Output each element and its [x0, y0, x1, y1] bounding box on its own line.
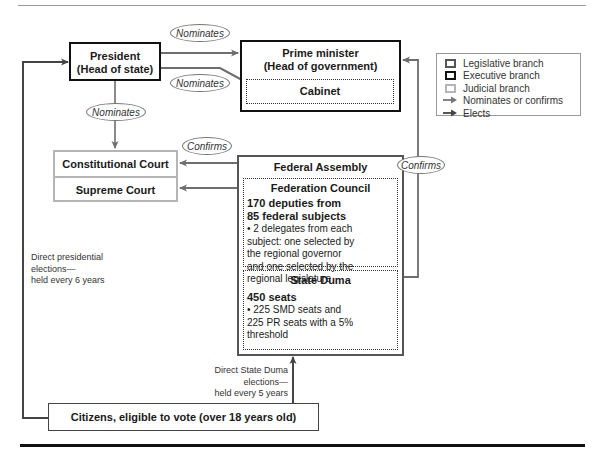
note-line: Direct State Duma	[185, 365, 288, 377]
legend-item-elects: Elects	[443, 107, 580, 120]
note-line: elections—	[31, 264, 141, 276]
presidential-elections-note: Direct presidential elections— held ever…	[31, 252, 141, 287]
confirms-label-pm: Confirms	[397, 156, 445, 174]
legend-label: Legislative branch	[463, 58, 544, 69]
constitutional-court: Constitutional Court	[55, 152, 176, 178]
state-duma-title: State Duma	[247, 274, 394, 287]
president-box: President (Head of state)	[69, 42, 161, 81]
federation-council-detail-1: • 2 delegates from each	[247, 223, 394, 236]
supreme-court: Supreme Court	[55, 178, 176, 202]
state-duma-headline: 450 seats	[247, 291, 394, 304]
federal-assembly-title: Federal Assembly	[239, 157, 402, 174]
federation-council-detail-2: subject: one selected by	[247, 236, 394, 249]
federation-council-headline-1: 170 deputies from	[247, 197, 394, 210]
nominates-label-pm: Nominates	[170, 24, 230, 42]
citizens-box: Citizens, eligible to vote (over 18 year…	[48, 403, 319, 431]
pm-subtitle: (Head of government)	[242, 60, 399, 73]
cabinet-box: Cabinet	[246, 79, 394, 104]
courts-box: Constitutional Court Supreme Court	[53, 150, 178, 202]
nominates-label-cabinet: Nominates	[170, 74, 230, 92]
federation-council-detail-3: the regional governor	[247, 248, 394, 261]
note-line: held every 6 years	[31, 275, 141, 287]
legend-item-judicial: Judicial branch	[443, 82, 580, 95]
legend-label: Elects	[463, 108, 490, 119]
legend-item-executive: Executive branch	[443, 70, 580, 83]
state-duma-detail-2: 225 PR seats with a 5%	[247, 317, 394, 330]
state-duma-detail-3: threshold	[247, 329, 394, 342]
citizens-to-president-arrow	[23, 62, 68, 418]
legend: Legislative branch Executive branch Judi…	[436, 53, 581, 116]
legend-item-nominates: Nominates or confirms	[443, 95, 580, 108]
federation-council-title: Federation Council	[247, 182, 394, 195]
pm-title: Prime minister	[242, 47, 399, 60]
president-subtitle: (Head of state)	[71, 63, 159, 76]
citizens-label: Citizens, eligible to vote (over 18 year…	[71, 411, 297, 424]
confirms-label-courts: Confirms	[182, 137, 232, 155]
federal-assembly-box: Federal Assembly Federation Council 170 …	[237, 155, 404, 356]
cabinet-label: Cabinet	[300, 85, 340, 98]
federation-council-headline-2: 85 federal subjects	[247, 210, 394, 223]
legend-label: Executive branch	[463, 70, 540, 81]
nominates-arrow-icon	[443, 95, 458, 106]
note-line: Direct presidential	[31, 252, 141, 264]
nominates-label-courts: Nominates	[86, 103, 146, 121]
legislative-swatch-icon	[445, 59, 456, 68]
note-line: elections—	[185, 377, 288, 389]
executive-swatch-icon	[445, 71, 456, 80]
state-duma-box: State Duma 450 seats • 225 SMD seats and…	[243, 270, 398, 350]
federation-council-box: Federation Council 170 deputies from 85 …	[243, 178, 398, 267]
legend-label: Judicial branch	[463, 83, 530, 94]
president-title: President	[71, 50, 159, 63]
legend-label: Nominates or confirms	[463, 95, 563, 106]
prime-minister-box: Prime minister (Head of government) Cabi…	[240, 40, 401, 112]
elects-arrow-icon	[443, 108, 458, 119]
judicial-swatch-icon	[445, 84, 456, 93]
state-duma-detail-1: • 225 SMD seats and	[247, 304, 394, 317]
duma-elections-note: Direct State Duma elections— held every …	[185, 365, 288, 400]
note-line: held every 5 years	[185, 388, 288, 400]
legend-item-legislative: Legislative branch	[443, 57, 580, 70]
